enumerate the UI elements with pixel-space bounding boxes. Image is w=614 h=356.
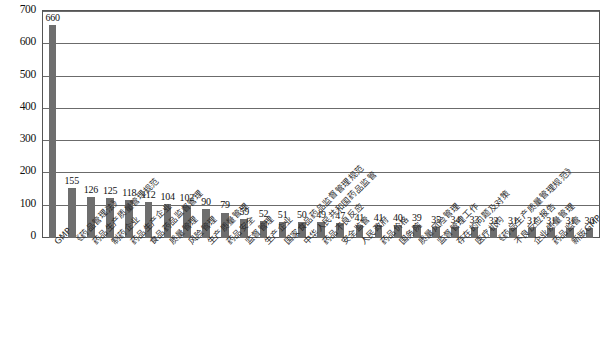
bar [49,11,57,238]
x-axis-labels: GMP《药品管理法》药品生产质量管理规范制药企业药品生产企业食品药品监督管理质量… [43,240,599,344]
bar [87,11,95,238]
bar-rect [49,25,57,238]
bar [509,11,517,238]
bar [68,11,76,238]
y-axis-tick-label: 500 [20,69,36,81]
y-axis-tick-label: 400 [20,101,36,113]
y-axis-tick-label: 200 [20,165,36,177]
y-axis: 0100200300400500600700 [0,10,40,238]
bar-chart: 0100200300400500600700 66015512612511811… [0,0,614,356]
bar [432,11,440,238]
bar-value-label: 660 [42,13,64,23]
bar [279,11,287,238]
y-axis-tick-label: 300 [20,133,36,145]
figure-caption [0,338,614,352]
bar [260,11,268,238]
bar [298,11,306,238]
y-axis-tick-label: 0 [31,230,36,242]
bar [586,11,594,238]
y-axis-tick-label: 600 [20,36,36,48]
bar [145,11,153,238]
bar [413,11,421,238]
y-axis-tick-label: 100 [20,198,36,210]
y-axis-tick-label: 700 [20,4,36,16]
bar [394,11,402,238]
bar [375,11,383,238]
